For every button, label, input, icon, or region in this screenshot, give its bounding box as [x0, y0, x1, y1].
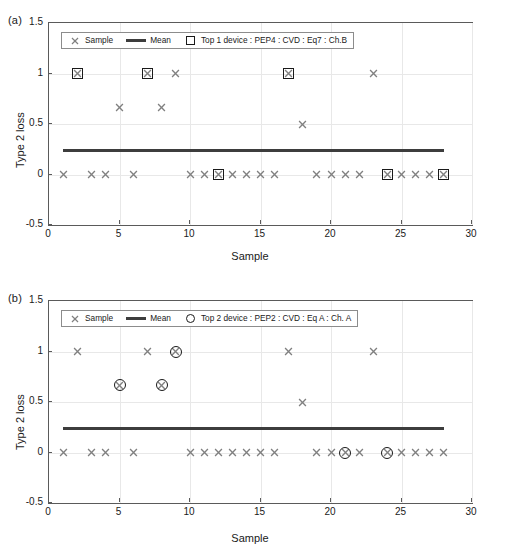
x-axis-tick-label: 30 [456, 228, 486, 239]
figure-root: (a) Type 2 loss Sample SampleMeanTop 1 d… [0, 0, 528, 556]
y-axis-tick-label: 0 [15, 446, 43, 457]
x-axis-tick-label: 5 [104, 506, 134, 517]
x-axis-tick [330, 498, 331, 502]
panel-a-xlabel: Sample [180, 250, 320, 262]
highlight-marker-circle-icon [339, 447, 351, 459]
y-axis-tick-label: 0.5 [15, 395, 43, 406]
legend-label-mean: Mean [150, 314, 171, 322]
x-axis-tick-label: 20 [315, 228, 345, 239]
legend-item-mean[interactable]: Mean [126, 314, 171, 322]
x-axis-tick-label: 15 [245, 228, 275, 239]
legend-label-sample: Sample [85, 36, 113, 44]
highlight-marker-square-icon [72, 68, 83, 79]
legend-label-sample: Sample [85, 314, 113, 322]
highlight-marker-circle-icon [114, 379, 126, 391]
legend-item-highlight[interactable]: Top 2 device : PEP2 : CVD : Eq A : Ch. A [184, 313, 351, 324]
highlight-marker-square-icon [283, 68, 294, 79]
gridline-horizontal [49, 352, 472, 353]
x-axis-tick-label: 20 [315, 506, 345, 517]
y-axis-tick [48, 351, 52, 352]
highlight-marker-square-icon [142, 68, 153, 79]
highlight-marker-circle-icon [156, 379, 168, 391]
sample-marker-x-icon [157, 103, 166, 112]
highlight-marker-square-icon [438, 169, 449, 180]
y-axis-tick [48, 300, 52, 301]
x-marker-icon [68, 35, 81, 46]
gridline-horizontal [49, 402, 472, 403]
gridline-vertical [472, 23, 473, 225]
panel-b-plot-area: SampleMeanTop 2 device : PEP2 : CVD : Eq… [48, 300, 473, 504]
y-axis-tick-label: -0.5 [15, 496, 43, 507]
y-axis-tick [48, 73, 52, 74]
y-axis-tick-label: 1 [15, 345, 43, 356]
x-axis-tick [119, 498, 120, 502]
legend-label-highlight: Top 2 device : PEP2 : CVD : Eq A : Ch. A [201, 314, 351, 322]
highlight-marker-square-icon [382, 169, 393, 180]
gridline-horizontal [49, 124, 472, 125]
x-axis-tick-label: 25 [386, 228, 416, 239]
y-axis-tick [48, 452, 52, 453]
legend-item-sample[interactable]: Sample [68, 313, 113, 324]
x-axis-tick [260, 220, 261, 224]
line-icon [126, 39, 146, 42]
y-axis-tick [48, 22, 52, 23]
panel-a: (a) Type 2 loss Sample SampleMeanTop 1 d… [0, 0, 528, 272]
legend-label-mean: Mean [150, 36, 171, 44]
circle-marker-icon [184, 313, 197, 324]
x-axis-tick [401, 498, 402, 502]
y-axis-tick [48, 401, 52, 402]
legend-item-highlight[interactable]: Top 1 device : PEP4 : CVD : Eq7 : Ch.B [184, 35, 347, 46]
x-axis-tick [260, 498, 261, 502]
x-axis-tick [401, 220, 402, 224]
y-axis-tick [48, 123, 52, 124]
highlight-marker-circle-icon [381, 447, 393, 459]
legend-item-sample[interactable]: Sample [68, 35, 113, 46]
x-axis-tick-label: 30 [456, 506, 486, 517]
legend-label-highlight: Top 1 device : PEP4 : CVD : Eq7 : Ch.B [201, 36, 347, 44]
y-axis-tick-label: 1 [15, 67, 43, 78]
x-axis-tick-label: 0 [33, 228, 63, 239]
gridline-vertical [472, 301, 473, 503]
x-axis-tick [471, 498, 472, 502]
highlight-marker-square-icon [213, 169, 224, 180]
gridline-horizontal [49, 453, 472, 454]
panel-b-xlabel: Sample [180, 532, 320, 544]
x-axis-tick [330, 220, 331, 224]
x-marker-icon [68, 313, 81, 324]
x-axis-tick-label: 15 [245, 506, 275, 517]
gridline-horizontal [49, 175, 472, 176]
square-marker-icon [184, 35, 197, 46]
y-axis-tick-label: 1.5 [15, 294, 43, 305]
y-axis-tick-label: 1.5 [15, 16, 43, 27]
x-axis-tick [189, 498, 190, 502]
x-axis-tick [471, 220, 472, 224]
y-axis-tick-label: -0.5 [15, 218, 43, 229]
panel-a-plot-area: SampleMeanTop 1 device : PEP4 : CVD : Eq… [48, 22, 473, 226]
mean-line [63, 149, 444, 152]
x-axis-tick-label: 5 [104, 228, 134, 239]
x-axis-tick-label: 0 [33, 506, 63, 517]
y-axis-tick-label: 0 [15, 168, 43, 179]
x-axis-tick [189, 220, 190, 224]
x-axis-tick-label: 10 [174, 506, 204, 517]
gridline-horizontal [49, 74, 472, 75]
x-axis-tick-label: 10 [174, 228, 204, 239]
x-axis-tick-label: 25 [386, 506, 416, 517]
chart-legend[interactable]: SampleMeanTop 1 device : PEP4 : CVD : Eq… [61, 32, 354, 49]
y-axis-tick [48, 224, 52, 225]
y-axis-tick [48, 502, 52, 503]
x-axis-tick [119, 220, 120, 224]
highlight-marker-circle-icon [170, 346, 182, 358]
y-axis-tick [48, 174, 52, 175]
mean-line [63, 427, 444, 430]
line-icon [126, 317, 146, 320]
legend-item-mean[interactable]: Mean [126, 36, 171, 44]
panel-b: (b) Type 2 loss Sample SampleMeanTop 2 d… [0, 278, 528, 556]
chart-legend[interactable]: SampleMeanTop 2 device : PEP2 : CVD : Eq… [61, 310, 358, 327]
y-axis-tick-label: 0.5 [15, 117, 43, 128]
